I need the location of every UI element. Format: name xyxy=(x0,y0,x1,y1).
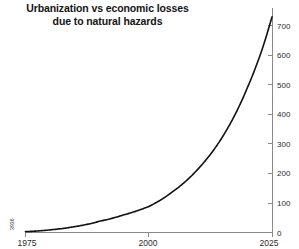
series-line-economic-losses xyxy=(26,17,273,232)
y-tick-label-500: 500 xyxy=(277,81,291,90)
y-tick-label-700: 700 xyxy=(277,22,291,31)
x-tick-label-1975: 1975 xyxy=(18,238,37,248)
x-tick-label-2000: 2000 xyxy=(139,238,158,248)
x-tick-label-2025: 2025 xyxy=(260,238,279,248)
y-axis-ticks xyxy=(268,26,272,233)
y-tick-label-300: 300 xyxy=(277,140,291,149)
chart-container: Urbanization vs economic losses due to n… xyxy=(0,0,299,249)
y-tick-label-600: 600 xyxy=(277,51,291,60)
y-tick-label-200: 200 xyxy=(277,169,291,178)
x-axis-ticks xyxy=(26,233,273,238)
y-tick-label-400: 400 xyxy=(277,110,291,119)
y-tick-label-100: 100 xyxy=(277,199,291,208)
chart-plot-area: 0 100 200 300 400 500 600 700 1975 2000 … xyxy=(0,0,299,249)
y-tick-label-0: 0 xyxy=(277,229,282,238)
origin-note: 3936 xyxy=(9,218,15,230)
